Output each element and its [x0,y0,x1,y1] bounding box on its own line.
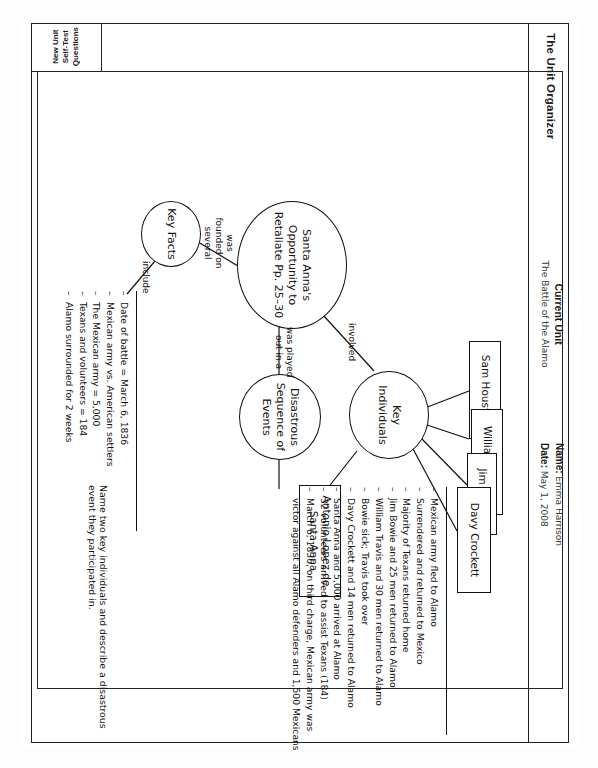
sequence-rule [446,487,447,735]
list-item: –32 volunteers arrived to assist Texans … [317,487,331,735]
node-disastrous-sequence-label: Disastrous Sequence of Events [259,375,302,459]
node-disastrous-sequence: Disastrous Sequence of Events [239,374,321,460]
list-item: –Majority of Texans returned home [400,487,414,735]
person-box-davy-crockett: Davy Crockett [457,487,491,593]
self-test-question: Name two key individuals and describe a … [87,485,109,749]
list-item: –Davy Crockett and 14 men returned to Al… [344,487,358,735]
list-item: –William Travis and 30 men returned to A… [372,487,386,735]
node-key-individuals: Key Individuals [349,371,429,459]
rotated-sheet: The Unit Organizer Current Unit The Batt… [19,19,579,749]
key-facts-rule [136,291,137,531]
node-center-topic-label: Santa Anna's Opportunity to Retaliate Pp… [271,202,314,328]
list-item-continuation: victor against all Alamo defenders and 1… [289,487,303,735]
list-item: –Alamo surrounded for 2 weeks [62,291,76,531]
connector-label-include: include [141,261,151,294]
node-key-individuals-label: Key Individuals [375,372,404,458]
worksheet-page: The Unit Organizer Current Unit The Batt… [0,0,598,768]
list-item: –March 6, 1836, on third charge, Mexican… [303,487,317,735]
sequence-panel: –Mexican army fled to Alamo –Surrendered… [289,487,447,735]
list-item: –Surrendered and returned to Mexico [413,487,427,735]
list-item: –Jim Bowie and 25 men returned to Alamo [386,487,400,735]
node-key-facts: Key Facts [141,201,201,267]
node-center-topic: Santa Anna's Opportunity to Retaliate Pp… [237,201,347,329]
connector-label-was-founded-on-several: was founded on several [203,215,235,271]
list-item: –Mexican army fled to Alamo [427,487,441,735]
sequence-list: –Mexican army fled to Alamo –Surrendered… [289,487,441,735]
connector-label-was-played-out-in-a: was played out in a [273,325,295,379]
node-key-facts-label: Key Facts [164,202,178,266]
list-item: –Date of battle = March 6, 1836 [117,291,131,531]
person-box-label: Davy Crockett [465,499,482,581]
list-item: –Santa Anna and 5,000 arrived at Alamo [331,487,345,735]
connector-label-involved: involved [347,323,357,361]
sheet: The Unit Organizer Current Unit The Batt… [19,19,579,749]
list-item: –Bowie sick; Travis took over [358,487,372,735]
